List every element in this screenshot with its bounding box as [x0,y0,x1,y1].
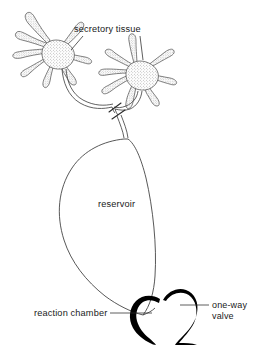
label-secretory-tissue: secretory tissue [74,24,141,34]
reservoir-outlet [143,308,155,315]
label-one-way-valve-line1: one-way [212,300,247,310]
label-reaction-chamber: reaction chamber [34,308,107,318]
one-way-valve-shape [163,289,198,345]
leader-secretory-right [140,36,143,60]
figure-container: secretory tissue reservoir reaction cham… [0,0,271,359]
gland-left-core [42,40,74,69]
anatomy-diagram-svg: secretory tissue reservoir reaction cham… [0,0,271,359]
label-one-way-valve-line2: valve [212,311,234,321]
reaction-chamber-shape [130,296,160,345]
reservoir-shape [59,139,155,315]
secretory-tissue-right-gland [99,34,177,109]
label-reservoir: reservoir [98,199,135,209]
